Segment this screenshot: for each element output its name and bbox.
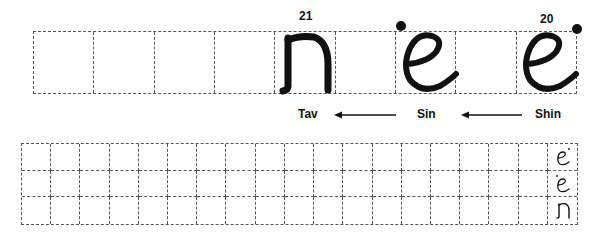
practice-cell [110, 197, 139, 224]
trace-cell [94, 32, 154, 93]
trace-cell [215, 32, 275, 93]
shin-glyph-icon [508, 18, 588, 98]
practice-cell [80, 197, 109, 224]
practice-grid [21, 143, 578, 225]
practice-cell [139, 197, 168, 224]
practice-cell [110, 171, 139, 198]
practice-cell [519, 197, 548, 224]
arrow-left-icon [461, 110, 524, 120]
practice-cell [22, 144, 51, 171]
sin-glyph-icon [388, 18, 460, 98]
sample-sin-cell [548, 171, 577, 198]
practice-cell [139, 171, 168, 198]
practice-cell [226, 171, 255, 198]
practice-cell [51, 197, 80, 224]
trace-cell [155, 32, 215, 93]
practice-cell [168, 144, 197, 171]
practice-cell [51, 144, 80, 171]
practice-cell [460, 144, 489, 171]
practice-cell [343, 144, 372, 171]
practice-cell [431, 197, 460, 224]
trace-cell [34, 32, 94, 93]
practice-cell [110, 144, 139, 171]
practice-cell [285, 171, 314, 198]
practice-cell [402, 197, 431, 224]
arrow-left-icon [334, 110, 398, 120]
tav-glyph-icon [276, 28, 338, 96]
tav-number: 21 [299, 9, 312, 23]
shin-sample-icon [553, 146, 573, 168]
practice-cell [343, 197, 372, 224]
practice-cell [314, 144, 343, 171]
practice-cell [373, 171, 402, 198]
practice-cell [226, 144, 255, 171]
practice-cell [431, 144, 460, 171]
practice-cell [460, 197, 489, 224]
practice-cell [519, 144, 548, 171]
practice-cell [197, 197, 226, 224]
practice-cell [343, 171, 372, 198]
sin-label: Sin [417, 107, 436, 121]
practice-cell [256, 171, 285, 198]
sample-shin-cell [548, 144, 577, 171]
shin-label: Shin [535, 107, 561, 121]
practice-cell [168, 197, 197, 224]
practice-cell [80, 171, 109, 198]
practice-cell [197, 144, 226, 171]
practice-cell [22, 197, 51, 224]
trace-cell [336, 32, 396, 93]
practice-cell [285, 197, 314, 224]
practice-cell [256, 144, 285, 171]
practice-cell [373, 144, 402, 171]
practice-cell [519, 171, 548, 198]
practice-cell [51, 171, 80, 198]
sin-sample-icon [553, 173, 573, 195]
practice-cell [402, 171, 431, 198]
practice-cell [22, 171, 51, 198]
practice-cell [139, 144, 168, 171]
sample-tav-cell [548, 197, 577, 224]
practice-cell [285, 144, 314, 171]
practice-cell [489, 144, 518, 171]
practice-cell [460, 171, 489, 198]
practice-cell [256, 197, 285, 224]
tav-sample-icon [553, 199, 573, 221]
practice-cell [373, 197, 402, 224]
practice-cell [168, 171, 197, 198]
practice-cell [314, 171, 343, 198]
tav-label: Tav [298, 107, 318, 121]
practice-cell [402, 144, 431, 171]
practice-cell [197, 171, 226, 198]
practice-cell [226, 197, 255, 224]
practice-cell [314, 197, 343, 224]
practice-cell [489, 197, 518, 224]
practice-cell [431, 171, 460, 198]
practice-cell [80, 144, 109, 171]
practice-cell [489, 171, 518, 198]
